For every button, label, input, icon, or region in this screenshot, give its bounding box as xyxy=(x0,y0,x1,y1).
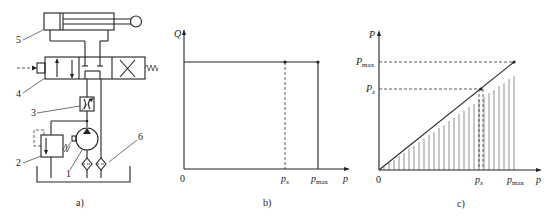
label-5: 5 xyxy=(16,34,21,45)
hydraulic-circuit-diagram: 5 4 3 2 1 6 a) xyxy=(16,13,158,209)
caption-a: a) xyxy=(76,197,84,209)
xtick-pmax-label: pmax xyxy=(506,174,525,187)
label-1: 1 xyxy=(66,168,71,179)
origin-label: 0 xyxy=(376,174,381,185)
hatched-area xyxy=(384,76,514,170)
x-axis-label: p xyxy=(342,173,348,184)
label-6: 6 xyxy=(138,131,143,142)
label-2: 2 xyxy=(16,157,21,168)
chart-c-power-pressure: P Pmax Px 0 px pmax p c) xyxy=(355,29,542,210)
label-4: 4 xyxy=(16,88,21,99)
figure: 5 4 3 2 1 6 a) Q 0 px pmax p b) xyxy=(0,0,553,217)
cylinder-icon xyxy=(44,13,142,30)
label-3: 3 xyxy=(31,107,36,118)
y-axis-label: Q xyxy=(174,28,182,39)
filter-icon xyxy=(96,158,106,170)
throttle-valve-icon xyxy=(80,97,94,111)
x-axis-label: p xyxy=(535,174,541,185)
caption-c: c) xyxy=(457,198,465,210)
pump-icon xyxy=(72,128,98,150)
caption-b: b) xyxy=(263,197,271,209)
filter-icon xyxy=(82,158,92,170)
chart-b-flow-pressure: Q 0 px pmax p b) xyxy=(174,28,350,209)
tick-pmax-label: pmax xyxy=(310,173,329,186)
xtick-px-label: px xyxy=(474,174,484,187)
relief-valve-icon xyxy=(34,130,71,157)
origin-label: 0 xyxy=(180,173,185,184)
tick-px-label: px xyxy=(280,173,290,186)
ytick-pmax-label: Pmax xyxy=(355,56,375,69)
directional-valve-icon xyxy=(17,57,158,79)
ytick-px-label: Px xyxy=(365,83,376,96)
y-axis-label: P xyxy=(368,29,375,40)
